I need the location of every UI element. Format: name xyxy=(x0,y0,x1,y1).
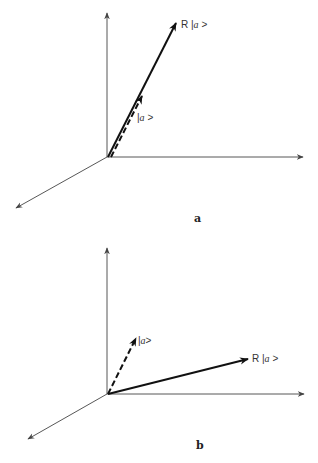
panel-a-vector-R-a xyxy=(108,23,176,157)
panel-a-x-axis xyxy=(16,157,107,208)
panel-a-caption: a xyxy=(194,212,201,225)
panel-b-label-a: |a> xyxy=(138,335,152,346)
figure-canvas: R |a > |a > a |a> R |a > b xyxy=(0,0,318,463)
panel-b-caption: b xyxy=(196,439,204,452)
panel-a: R |a > |a > a xyxy=(16,13,303,225)
panel-b-vector-R-a xyxy=(108,359,248,394)
panel-b-vector-a xyxy=(108,338,136,394)
panel-a-label-a: |a > xyxy=(137,112,153,123)
panel-b-x-axis xyxy=(28,394,107,439)
panel-a-vector-a xyxy=(111,96,142,157)
panel-a-label-R-a: R |a > xyxy=(181,19,207,30)
panel-b-label-R-a: R |a > xyxy=(252,353,278,364)
panel-b: |a> R |a > b xyxy=(28,248,304,452)
